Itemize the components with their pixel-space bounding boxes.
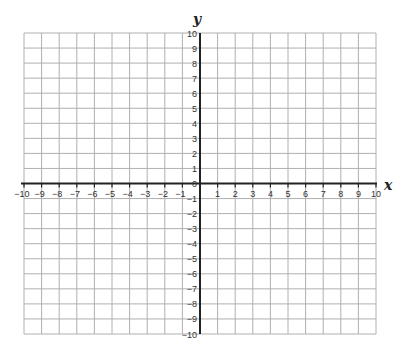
x-tick-label: 3	[250, 189, 255, 199]
x-tick-label: −1	[175, 189, 185, 199]
y-tick-label: 7	[192, 74, 197, 84]
y-tick-label: 8	[192, 59, 197, 69]
y-axis-label: y	[192, 11, 202, 27]
y-tick-label: −9	[187, 314, 197, 324]
y-tick-label: −2	[187, 209, 197, 219]
y-tick-label: 1	[192, 164, 197, 174]
x-tick-label: −10	[14, 189, 29, 199]
coordinate-plane: −10−9−8−7−6−5−4−3−2−112345678910 1098765…	[0, 0, 411, 363]
x-tick-label: 5	[285, 189, 290, 199]
x-tick-label: −7	[70, 189, 80, 199]
x-tick-label: −3	[140, 189, 150, 199]
x-tick-label: 2	[233, 189, 238, 199]
y-tick-label: 5	[192, 104, 197, 114]
x-tick-label: 1	[215, 189, 220, 199]
y-tick-label: 3	[192, 134, 197, 144]
x-tick-label: 6	[303, 189, 308, 199]
y-tick-label: −3	[187, 224, 197, 234]
y-tick-label: 2	[192, 149, 197, 159]
x-axis-label: x	[383, 177, 393, 193]
x-tick-label: −9	[34, 189, 44, 199]
y-tick-label: 10	[187, 29, 197, 39]
y-tick-label: −7	[187, 284, 197, 294]
x-tick-label: 4	[268, 189, 273, 199]
x-tick-label: −2	[158, 189, 168, 199]
x-tick-label: −4	[122, 189, 132, 199]
x-tick-label: 10	[371, 189, 381, 199]
y-tick-label: −8	[187, 299, 197, 309]
y-tick-label: −10	[182, 330, 197, 340]
y-tick-label: 9	[192, 44, 197, 54]
x-tick-label: 7	[321, 189, 326, 199]
x-tick-label: −5	[105, 189, 115, 199]
y-tick-label: 6	[192, 89, 197, 99]
x-tick-label: 8	[338, 189, 343, 199]
y-tick-label: 4	[192, 119, 197, 129]
x-tick-label: −8	[52, 189, 62, 199]
x-tick-label: 9	[356, 189, 361, 199]
y-tick-label: −6	[187, 269, 197, 279]
y-tick-label: −5	[187, 254, 197, 264]
y-tick-label: −1	[187, 194, 197, 204]
x-tick-labels: −10−9−8−7−6−5−4−3−2−112345678910	[14, 189, 381, 199]
x-tick-label: −6	[87, 189, 97, 199]
y-tick-label: 0	[192, 179, 197, 189]
y-tick-label: −4	[187, 239, 197, 249]
